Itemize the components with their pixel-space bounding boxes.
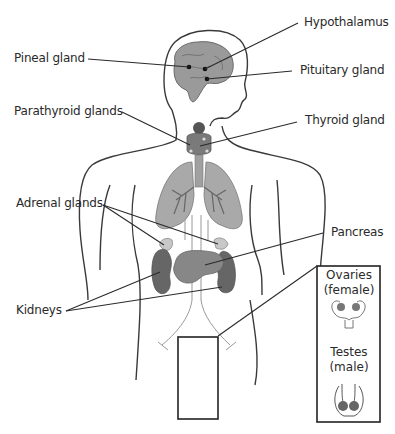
label-ovaries-title: Ovaries [310, 268, 388, 283]
brain [174, 42, 233, 102]
label-ovaries-sub: (female) [310, 283, 388, 298]
label-pineal-gland: Pineal gland [14, 51, 85, 65]
lungs [156, 155, 243, 229]
label-ovaries: Ovaries (female) [310, 268, 388, 298]
pancreas [174, 250, 224, 283]
label-thyroid-gland: Thyroid gland [305, 113, 385, 127]
label-pancreas: Pancreas [331, 225, 383, 239]
label-parathyroid-glands: Parathyroid glands [14, 104, 123, 118]
label-testes: Testes (male) [310, 345, 388, 375]
label-testes-sub: (male) [310, 360, 388, 375]
label-hypothalamus: Hypothalamus [304, 15, 389, 29]
label-adrenal-glands: Adrenal glands [16, 196, 103, 210]
label-testes-title: Testes [310, 345, 388, 360]
thyroid [187, 122, 211, 155]
left-kidney [152, 249, 172, 293]
left-adrenal-gland [160, 238, 173, 250]
pelvic-box [178, 337, 218, 419]
label-kidneys: Kidneys [16, 303, 62, 317]
label-pituitary-gland: Pituitary gland [300, 63, 384, 77]
